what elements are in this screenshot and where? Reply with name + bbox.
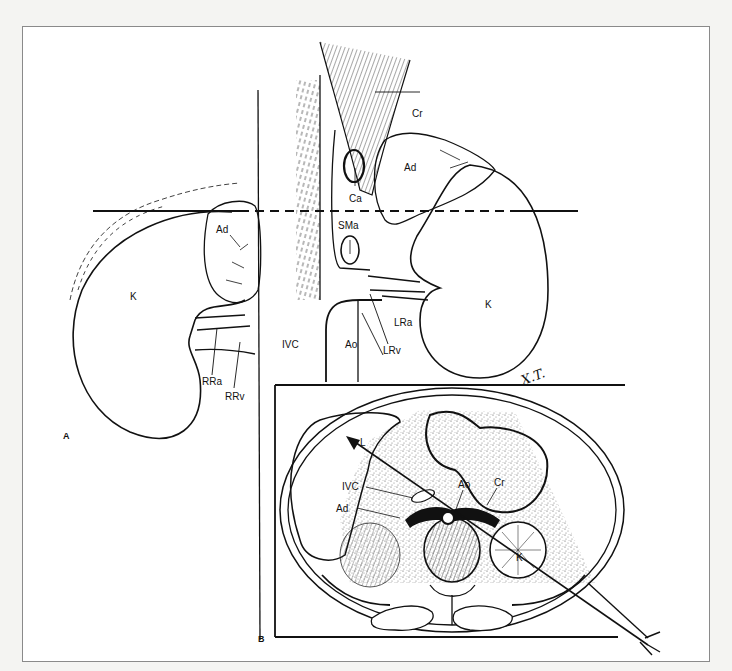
label-right-adrenal: Ad — [216, 224, 228, 235]
label-crus: Cr — [412, 108, 423, 119]
label-liver: L — [360, 437, 366, 448]
label-kidney-b: K — [516, 552, 523, 563]
left-renal-artery — [368, 276, 425, 292]
label-ivc-b: IVC — [342, 481, 359, 492]
right-kidney — [73, 212, 245, 439]
right-renal-artery — [195, 315, 250, 330]
label-right-renal-vein: RRv — [225, 391, 244, 402]
label-crus-b: Cr — [494, 477, 505, 488]
label-ivc: IVC — [282, 339, 299, 350]
colon-mass — [340, 523, 400, 587]
crus-shading — [296, 80, 320, 300]
needle-hub-icon — [640, 632, 660, 655]
label-right-renal-artery: RRa — [202, 376, 222, 387]
perirenal-fat — [70, 183, 240, 300]
label-celiac-artery: Ca — [349, 193, 362, 204]
label-aorta: Ao — [345, 339, 358, 350]
vertebral-body — [424, 518, 480, 582]
label-aorta-b: Ao — [458, 479, 471, 490]
anatomy-illustration: K Ad RRa RRv IVC Ao Ca SMa Cr Ad K LRa L… — [0, 0, 732, 671]
label-left-renal-artery: LRa — [394, 317, 413, 328]
label-left-adrenal: Ad — [404, 162, 416, 173]
crus — [320, 42, 410, 195]
panel-label-a: A — [63, 431, 70, 441]
panel-label-b: B — [258, 634, 265, 644]
label-left-renal-vein: LRv — [383, 345, 401, 356]
label-left-kidney: K — [485, 299, 492, 310]
panel-b — [275, 385, 660, 655]
aorta-cross-section — [442, 512, 454, 524]
left-kidney — [411, 165, 548, 378]
label-adrenal-b: Ad — [336, 503, 348, 514]
label-right-kidney: K — [130, 291, 137, 302]
right-adrenal — [204, 201, 260, 302]
ivc-wall — [258, 90, 260, 640]
label-sma: SMa — [338, 220, 359, 231]
